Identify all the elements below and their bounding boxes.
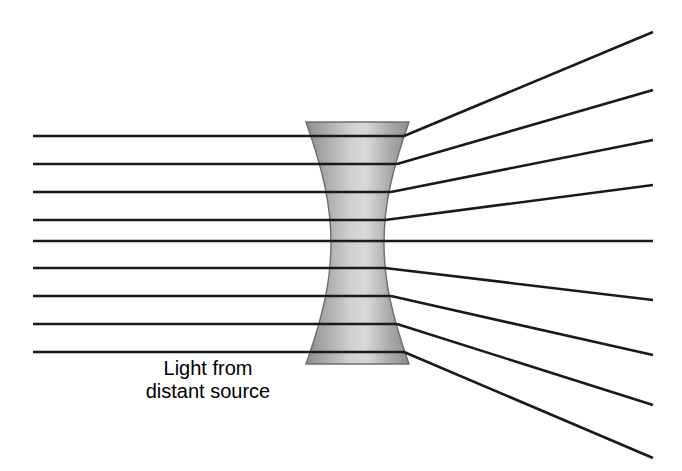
diagram-canvas: Light from distant source	[0, 0, 682, 471]
caption-line-light-from: Light from	[164, 357, 253, 379]
caption-line-distant-source: distant source	[146, 380, 271, 402]
lens-ray-diagram: Light from distant source	[0, 0, 682, 471]
